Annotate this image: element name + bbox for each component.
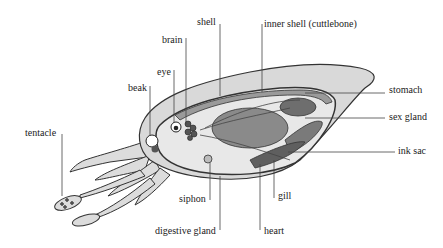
- label-gill: gill: [278, 190, 291, 202]
- label-beak: beak: [128, 82, 147, 94]
- label-tentacle: tentacle: [25, 127, 56, 139]
- beak-shape: [146, 135, 158, 147]
- cuttlefish-diagram: [0, 0, 443, 248]
- label-inner-shell: inner shell (cuttlebone): [264, 18, 357, 30]
- label-ink-sac: ink sac: [398, 145, 426, 157]
- label-digestive-gland: digestive gland: [155, 225, 216, 237]
- siphon-shape: [204, 155, 212, 163]
- digestive-gland-shape: [212, 108, 288, 148]
- label-eye: eye: [157, 66, 171, 78]
- label-heart: heart: [264, 225, 284, 237]
- label-stomach: stomach: [389, 84, 422, 96]
- label-sex-gland: sex gland: [389, 111, 427, 123]
- beak-dark: [152, 146, 159, 153]
- eye-pupil: [174, 126, 179, 131]
- label-shell: shell: [197, 16, 216, 28]
- label-brain: brain: [162, 34, 183, 46]
- label-siphon: siphon: [179, 193, 206, 205]
